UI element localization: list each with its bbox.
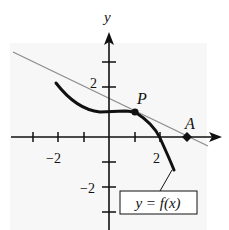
point-p-marker [131, 108, 138, 115]
y-axis-label: y [102, 9, 111, 25]
y-tick-label-2: 2 [90, 76, 97, 91]
curve-label: y = f(x) [133, 195, 180, 212]
x-tick-label-neg2: −2 [46, 151, 61, 166]
point-a-label: A [184, 115, 195, 132]
point-p-label: P [136, 90, 147, 107]
graph-figure: y 2 −2 −2 2 P A y = f(x) [0, 0, 229, 230]
y-tick-label-neg2: −2 [80, 181, 95, 196]
x-tick-label-2: 2 [153, 151, 160, 166]
